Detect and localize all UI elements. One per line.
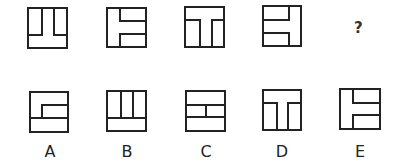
option-figure-c[interactable] bbox=[186, 91, 225, 131]
figure-frame bbox=[263, 90, 301, 130]
option-label-e[interactable]: E bbox=[350, 142, 370, 161]
option-label-c[interactable]: C bbox=[196, 142, 216, 161]
figure-frame bbox=[30, 92, 68, 132]
sequence-figure-3 bbox=[185, 7, 224, 47]
figure-frame bbox=[28, 8, 67, 48]
sequence-figure-2 bbox=[107, 8, 146, 47]
sequence-figure-1 bbox=[28, 8, 67, 48]
question-mark: ? bbox=[354, 19, 363, 37]
option-figure-b[interactable] bbox=[107, 91, 146, 131]
option-figure-a[interactable] bbox=[30, 92, 68, 132]
figure-frame bbox=[263, 6, 301, 46]
option-figure-d[interactable] bbox=[263, 90, 301, 130]
option-label-d[interactable]: D bbox=[272, 142, 292, 161]
option-label-b[interactable]: B bbox=[117, 142, 137, 161]
figure-frame bbox=[340, 89, 380, 129]
figure-frame bbox=[185, 7, 224, 47]
figure-frame bbox=[107, 8, 146, 47]
option-label-a[interactable]: A bbox=[40, 142, 60, 161]
figure-frame bbox=[107, 91, 146, 131]
option-figure-e[interactable] bbox=[340, 89, 380, 129]
sequence-figure-4 bbox=[263, 6, 301, 46]
